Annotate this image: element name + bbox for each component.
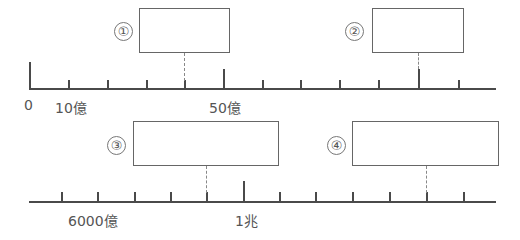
tick [97,192,99,202]
label-zero: 0 [24,97,33,113]
tick [426,192,428,202]
tick [206,192,208,202]
tick [339,80,341,89]
tick [170,192,172,202]
tick [68,80,70,89]
tick [146,80,148,89]
origin-tick [29,62,31,89]
tick [184,80,186,89]
answer-box-3[interactable] [133,121,279,166]
tick [134,192,136,202]
marker-2-number: ② [345,22,364,41]
marker-1-number: ① [114,22,133,41]
label-1-cho: 1兆 [235,210,258,230]
tick [389,192,391,202]
tick [315,192,317,202]
tick [262,80,264,89]
pointer-line-3 [206,166,207,193]
label-50-oku: 50億 [209,97,241,117]
tick [378,80,380,89]
label-10-oku: 10億 [55,97,87,117]
pointer-line-2 [418,53,419,69]
tick [61,192,63,202]
marker-3-number: ③ [107,136,126,155]
label-6000-oku: 6000億 [68,210,118,230]
tick [279,192,281,202]
tick [300,80,302,89]
tick [463,192,465,202]
marker-4-number: ④ [327,136,346,155]
answer-box-1[interactable] [139,8,230,53]
pointer-line-1 [184,53,185,81]
answer-box-4[interactable] [352,121,499,166]
tick [458,80,460,89]
major-tick-1-cho [243,181,245,202]
answer-box-2[interactable] [372,8,464,53]
major-tick-50 [223,69,225,89]
tick [107,80,109,89]
pointer-line-4 [426,166,427,193]
tick [352,192,354,202]
major-tick-100 [418,69,420,89]
